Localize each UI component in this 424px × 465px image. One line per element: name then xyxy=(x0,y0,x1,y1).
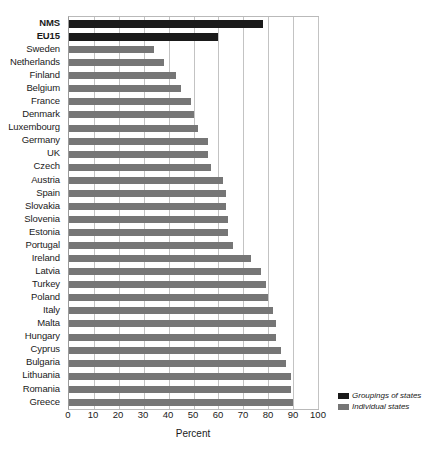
bar-row xyxy=(69,95,318,108)
y-axis-label: Italy xyxy=(0,303,64,316)
y-axis-label: Spain xyxy=(0,186,64,199)
chart-legend: Groupings of statesIndividual states xyxy=(338,392,424,414)
bar-row xyxy=(69,174,318,187)
bar-row xyxy=(69,304,318,317)
bar xyxy=(69,125,198,132)
bar xyxy=(69,20,263,28)
x-axis-tick-labels: 0102030405060708090100 xyxy=(68,410,318,426)
y-axis-label: Greece xyxy=(0,395,64,408)
plot-area xyxy=(68,16,319,410)
legend-item[interactable]: Groupings of states xyxy=(338,392,424,401)
legend-item[interactable]: Individual states xyxy=(338,403,424,412)
y-axis-label: Ireland xyxy=(0,251,64,264)
y-axis-label: Luxembourg xyxy=(0,121,64,134)
y-axis-label: Poland xyxy=(0,290,64,303)
y-axis-label: Portugal xyxy=(0,238,64,251)
y-axis-label: Slovakia xyxy=(0,199,64,212)
x-axis-tick: 40 xyxy=(163,410,174,420)
bar-row xyxy=(69,135,318,148)
bar-row xyxy=(69,69,318,82)
y-axis-category-labels: NMSEU15SwedenNetherlandsFinlandBelgiumFr… xyxy=(0,16,64,408)
legend-swatch-icon xyxy=(338,404,349,410)
y-axis-label: Romania xyxy=(0,382,64,395)
y-axis-label: Cyprus xyxy=(0,343,64,356)
x-axis-tick: 50 xyxy=(188,410,199,420)
bar xyxy=(69,268,261,275)
bar-row xyxy=(69,226,318,239)
bar xyxy=(69,242,233,249)
y-axis-label: Netherlands xyxy=(0,55,64,68)
bar xyxy=(69,177,223,184)
bar xyxy=(69,386,291,393)
bar-row xyxy=(69,291,318,304)
bar-chart: NMSEU15SwedenNetherlandsFinlandBelgiumFr… xyxy=(0,0,424,465)
bar xyxy=(69,203,226,210)
bar xyxy=(69,399,293,406)
legend-label: Groupings of states xyxy=(352,392,421,401)
bar-row xyxy=(69,317,318,330)
y-axis-label: Czech xyxy=(0,160,64,173)
y-axis-label: EU15 xyxy=(0,29,64,42)
x-axis-tick: 100 xyxy=(310,410,326,420)
bar-series-container xyxy=(69,17,318,409)
bar xyxy=(69,111,194,118)
bar-row xyxy=(69,396,318,409)
bar-row xyxy=(69,30,318,43)
y-axis-label: Bulgaria xyxy=(0,356,64,369)
y-axis-label: Malta xyxy=(0,316,64,329)
x-axis-tick: 10 xyxy=(88,410,99,420)
bar-row xyxy=(69,122,318,135)
y-axis-label: Austria xyxy=(0,173,64,186)
y-axis-label: Germany xyxy=(0,134,64,147)
y-axis-label: Turkey xyxy=(0,277,64,290)
bar xyxy=(69,85,181,92)
y-axis-label: France xyxy=(0,94,64,107)
y-axis-label: Slovenia xyxy=(0,212,64,225)
x-axis-tick: 60 xyxy=(213,410,224,420)
bar-row xyxy=(69,161,318,174)
bar-row xyxy=(69,265,318,278)
bar xyxy=(69,138,208,145)
bar xyxy=(69,229,228,236)
bar xyxy=(69,347,281,354)
y-axis-label: UK xyxy=(0,147,64,160)
y-axis-label: Lithuania xyxy=(0,369,64,382)
legend-swatch-icon xyxy=(338,393,349,399)
legend-label: Individual states xyxy=(352,403,409,412)
bar-row xyxy=(69,56,318,69)
bar-row xyxy=(69,43,318,56)
bar-row xyxy=(69,252,318,265)
x-axis-tick: 90 xyxy=(288,410,299,420)
bar xyxy=(69,255,251,262)
bar xyxy=(69,334,276,341)
bar xyxy=(69,360,286,367)
x-axis-tick: 0 xyxy=(65,410,70,420)
y-axis-label: Denmark xyxy=(0,107,64,120)
chart-title xyxy=(0,0,424,12)
x-axis-tick: 30 xyxy=(138,410,149,420)
bar-row xyxy=(69,278,318,291)
bar xyxy=(69,307,273,314)
bar xyxy=(69,164,211,171)
y-axis-label: Belgium xyxy=(0,81,64,94)
y-axis-label: NMS xyxy=(0,16,64,29)
x-axis-tick: 70 xyxy=(238,410,249,420)
bar xyxy=(69,151,208,158)
y-axis-label: Latvia xyxy=(0,264,64,277)
bar-row xyxy=(69,357,318,370)
bar-row xyxy=(69,187,318,200)
y-axis-label: Estonia xyxy=(0,225,64,238)
bar-row xyxy=(69,82,318,95)
y-axis-label: Hungary xyxy=(0,330,64,343)
bar-row xyxy=(69,239,318,252)
bar-row xyxy=(69,344,318,357)
bar-row xyxy=(69,200,318,213)
bar xyxy=(69,216,228,223)
bar xyxy=(69,190,226,197)
bar-row xyxy=(69,370,318,383)
y-axis-label: Sweden xyxy=(0,42,64,55)
bar xyxy=(69,320,276,327)
bar-row xyxy=(69,331,318,344)
bar xyxy=(69,281,266,288)
bar-row xyxy=(69,108,318,121)
